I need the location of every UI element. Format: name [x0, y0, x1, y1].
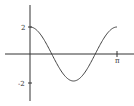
y-label-2: 2	[21, 24, 25, 32]
cosine-graph: 2 -2 π	[0, 0, 134, 106]
y-label-neg2: -2	[18, 80, 25, 88]
x-label-pi: π	[115, 57, 120, 65]
